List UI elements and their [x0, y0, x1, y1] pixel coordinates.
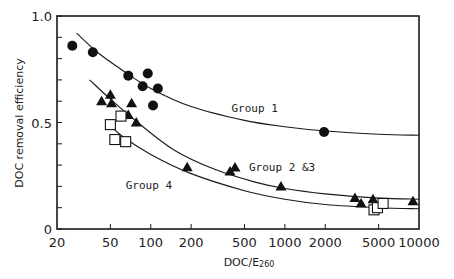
filled-triangle-marker — [126, 98, 137, 108]
fit-curve-group-1 — [77, 33, 419, 135]
x-tick-label: 50 — [102, 235, 119, 250]
x-axis-title-subscript: 260 — [259, 260, 274, 269]
y-tick-label: 1.0 — [31, 9, 52, 24]
filled-triangle-marker — [229, 162, 240, 172]
annotation-label: Group 4 — [126, 179, 173, 192]
doc-removal-chart: 00.51.0 205010020050010002000500010000 G… — [0, 0, 454, 279]
x-axis-title: DOC/E260 — [224, 256, 275, 269]
filled-triangle-marker — [105, 89, 116, 99]
annotation-label: Group 1 — [232, 102, 278, 115]
x-tick-label: 100 — [138, 235, 163, 250]
x-axis-ticks: 205010020050010002000500010000 — [49, 224, 440, 250]
annotation-label: Group 2 &3 — [249, 161, 315, 174]
filled-circle-marker — [148, 100, 158, 110]
filled-circle-marker — [143, 69, 153, 79]
filled-circle-marker — [123, 71, 133, 81]
filled-circle-marker — [153, 83, 163, 93]
x-axis-title-main: DOC/E — [224, 256, 260, 269]
series-group-4 — [105, 111, 388, 215]
open-square-marker — [110, 135, 120, 145]
filled-triangle-marker — [106, 98, 117, 108]
x-tick-label: 500 — [232, 235, 257, 250]
open-square-marker — [116, 111, 126, 121]
open-square-marker — [105, 120, 115, 130]
filled-circle-marker — [319, 127, 329, 137]
x-tick-label: 200 — [179, 235, 204, 250]
x-tick-label: 2000 — [309, 235, 342, 250]
filled-circle-marker — [67, 41, 77, 51]
y-axis-title: DOC removal efficiency — [13, 58, 26, 188]
x-tick-label: 20 — [49, 235, 66, 250]
filled-triangle-marker — [182, 162, 193, 172]
open-square-marker — [121, 137, 131, 147]
data-points — [67, 41, 418, 215]
filled-triangle-marker — [96, 96, 107, 106]
x-tick-label: 1000 — [268, 235, 301, 250]
filled-circle-marker — [138, 81, 148, 91]
filled-circle-marker — [88, 47, 98, 57]
filled-triangle-marker — [407, 196, 418, 206]
open-square-marker — [378, 198, 388, 208]
y-tick-label: 0.5 — [31, 116, 52, 131]
x-tick-label: 5000 — [362, 235, 395, 250]
filled-triangle-marker — [275, 181, 286, 191]
x-tick-label: 10000 — [398, 235, 439, 250]
